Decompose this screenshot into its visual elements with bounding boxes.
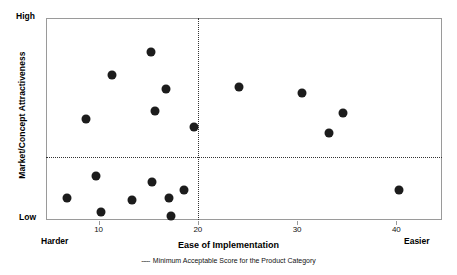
plot-area [46,18,442,220]
data-point [298,88,307,97]
data-point [128,195,137,204]
data-point [151,106,160,115]
legend-dash-icon: ----- [141,257,150,264]
data-point [165,193,174,202]
y-axis-title: Market/Concept Attractiveness [17,30,27,200]
data-point [62,193,71,202]
vertical-threshold-line [198,18,199,220]
data-point [395,185,404,194]
x-tick-label: 40 [392,225,401,234]
data-point [107,70,116,79]
chart-legend: -----Minimum Acceptable Score for the Pr… [0,257,457,264]
y-axis-high-label: High [16,11,35,21]
horizontal-threshold-line [46,157,442,158]
x-tick-label: 20 [193,225,202,234]
x-tick-label: 30 [293,225,302,234]
data-point [96,207,105,216]
data-point [338,108,347,117]
y-axis-low-label: Low [19,212,36,222]
data-point [324,129,333,138]
data-point [148,177,157,186]
x-tick-label: 10 [94,225,103,234]
data-point [81,115,90,124]
data-point [234,82,243,91]
data-point [91,171,100,180]
data-point [179,185,188,194]
data-point [167,211,176,220]
data-point [162,84,171,93]
scatter-chart: Market/Concept Attractiveness High Low H… [0,0,457,275]
legend-label: Minimum Acceptable Score for the Product… [153,257,316,264]
x-axis-title: Ease of Implementation [0,240,457,250]
data-point [147,48,156,57]
